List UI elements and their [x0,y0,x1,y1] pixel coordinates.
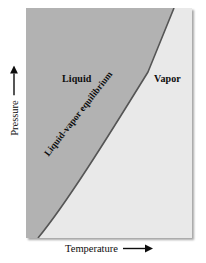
liquid-region-label: Liquid [62,73,92,84]
x-axis-label-text: Temperature [65,243,118,254]
phase-regions-svg [26,8,192,238]
y-axis-label-text: Pressure [9,100,20,136]
up-arrow-icon [10,65,19,95]
phase-diagram-figure: Liquid Vapor Liquid-vapor equilibrium Te… [0,0,206,263]
y-axis-title: Pressure [9,41,20,161]
vapor-region-label: Vapor [154,73,181,84]
right-arrow-icon [123,244,153,253]
plot-area: Liquid Vapor Liquid-vapor equilibrium [26,8,192,238]
x-axis-title: Temperature [26,243,192,254]
